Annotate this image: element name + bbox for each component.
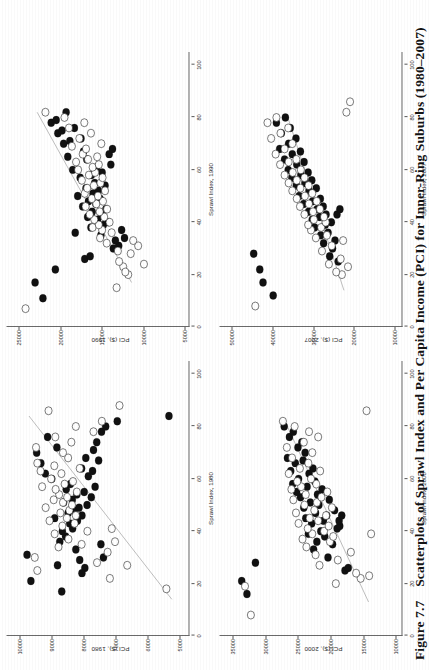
x-tick-mark: [191, 116, 194, 117]
x-tick-mark: [404, 530, 407, 531]
x-tick-mark: [404, 64, 407, 65]
x-tick-mark: [404, 221, 407, 222]
x-tick-label: 20: [195, 272, 201, 278]
x-tick-mark: [191, 64, 194, 65]
x-tick-mark: [191, 169, 194, 170]
y-axis-label: PCI ($), 2000: [258, 646, 388, 653]
x-tick-mark: [191, 583, 194, 584]
x-tick-mark: [191, 373, 194, 374]
x-tick-mark: [191, 635, 194, 636]
plot-canvas-2007: [219, 52, 402, 327]
x-tick-label: 60: [195, 476, 201, 482]
scatter-points-2007: [219, 52, 402, 327]
x-tick-mark: [404, 274, 407, 275]
x-axis-label: Sprawl Index, 1980: [206, 361, 213, 636]
y-axis-label-wrap-1990: PCI ($), 1990: [4, 327, 215, 353]
plot-canvas-2000: [219, 361, 402, 636]
x-tick-label: 80: [195, 114, 201, 120]
x-tick-label: 20: [195, 581, 201, 587]
panel-plot-2007: 1000020000300004000050000 PCI ($), 2007 …: [217, 50, 428, 353]
x-tick-mark: [404, 373, 407, 374]
figure-caption-text: Scatterplots of Sprawl Index and Per Cap…: [411, 27, 426, 586]
y-axis-label-wrap-2000: PCI ($), 2000: [217, 636, 428, 662]
x-tick-label: 80: [195, 423, 201, 429]
y-axis-label: PCI ($), 2007: [258, 337, 388, 344]
x-tick-label: 100: [195, 369, 201, 378]
x-tick-label: 40: [195, 219, 201, 225]
x-tick-mark: [191, 425, 194, 426]
x-tick-mark: [404, 583, 407, 584]
x-tick-mark: [191, 274, 194, 275]
panel-plot-1990: 500010000150002000025000 PCI ($), 1990 0…: [4, 50, 215, 353]
x-ticks-1990: 020406080100: [191, 52, 201, 327]
x-tick-mark: [191, 221, 194, 222]
x-tick-mark: [191, 530, 194, 531]
x-tick-mark: [404, 478, 407, 479]
scatterplot-grid: 5000600070008000900010000 PCI ($), 1980 …: [4, 50, 428, 662]
rotated-page-wrapper: 5000600070008000900010000 PCI ($), 1980 …: [0, 0, 431, 670]
x-tick-mark: [404, 116, 407, 117]
x-tick-label: 60: [195, 167, 201, 173]
x-tick-mark: [191, 326, 194, 327]
figure-caption: Figure 7.7Scatterplots of Sprawl Index a…: [411, 10, 427, 660]
scatter-points-1980: [6, 361, 189, 636]
x-ticks-1980: 020406080100: [191, 361, 201, 636]
x-tick-mark: [404, 169, 407, 170]
x-tick-label: 0: [195, 634, 201, 637]
x-tick-mark: [404, 635, 407, 636]
x-tick-label: 0: [195, 325, 201, 328]
panel-plot-1980: 5000600070008000900010000 PCI ($), 1980 …: [4, 359, 215, 662]
scatter-points-1990: [6, 52, 189, 327]
plot-canvas-1990: [6, 52, 189, 327]
y-axis-label: PCI ($), 1980: [45, 646, 175, 653]
x-tick-label: 100: [195, 60, 201, 69]
plot-canvas-1980: [6, 361, 189, 636]
x-tick-mark: [404, 425, 407, 426]
figure-number: Figure 7.7: [411, 601, 426, 660]
x-tick-mark: [191, 478, 194, 479]
figure-page: 5000600070008000900010000 PCI ($), 1980 …: [0, 0, 431, 670]
panel-plot-2000: 100001500020000250003000035000 PCI ($), …: [217, 359, 428, 662]
scatter-points-2000: [219, 361, 402, 636]
y-axis-label-wrap-1980: PCI ($), 1980: [4, 636, 215, 662]
y-axis-label-wrap-2007: PCI ($), 2007: [217, 327, 428, 353]
x-tick-label: 40: [195, 528, 201, 534]
x-tick-mark: [404, 326, 407, 327]
y-axis-label: PCI ($), 1990: [45, 337, 175, 344]
x-axis-label: Sprawl Index, 1990: [206, 52, 213, 327]
